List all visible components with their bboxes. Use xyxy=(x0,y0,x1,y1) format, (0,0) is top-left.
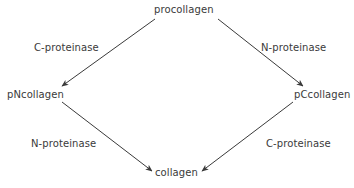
edge-pccollagen-to-collagen xyxy=(202,102,293,171)
edge-label-bottom-left: N-proteinase xyxy=(31,138,96,149)
node-pccollagen: pCcollagen xyxy=(294,89,350,100)
diagram-canvas: procollagen pNcollagen pCcollagen collag… xyxy=(0,0,354,188)
node-procollagen: procollagen xyxy=(154,4,214,15)
edge-label-top-right: N-proteinase xyxy=(261,42,326,53)
edge-pncollagen-to-collagen xyxy=(62,102,152,171)
edge-label-bottom-right: C-proteinase xyxy=(266,138,331,149)
node-pncollagen: pNcollagen xyxy=(7,89,64,100)
node-collagen: collagen xyxy=(155,167,198,178)
edge-label-top-left: C-proteinase xyxy=(34,42,99,53)
